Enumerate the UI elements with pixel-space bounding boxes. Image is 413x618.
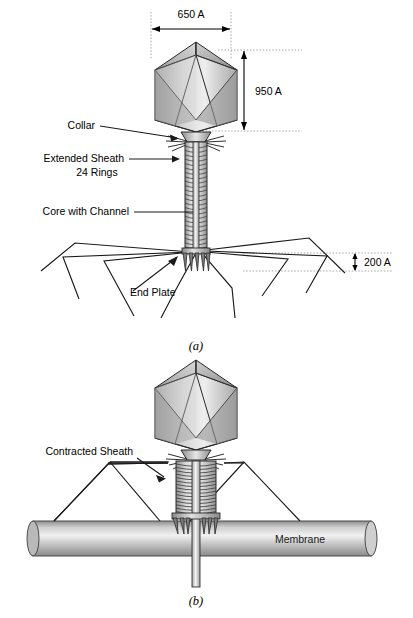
dimension-head-height: 950 A xyxy=(241,51,282,130)
label-collar: Collar xyxy=(68,119,96,131)
label-extended-sheath-rings: 24 Rings xyxy=(76,166,117,178)
phage-diagram: 650 A 950 A 200 A xyxy=(0,0,413,618)
base-plate-a xyxy=(182,248,210,271)
caption-panel-a: (a) xyxy=(189,339,204,353)
label-leaders-b xyxy=(137,458,164,477)
panel-a: 650 A 950 A 200 A xyxy=(41,8,392,353)
label-end-plate: End Plate xyxy=(130,286,176,298)
label-contracted-sheath: Contracted Sheath xyxy=(45,445,133,457)
core-channel-b xyxy=(192,461,200,587)
panel-b: Membrane xyxy=(27,360,377,608)
capsid-a xyxy=(155,42,237,132)
core-channel-a xyxy=(193,142,199,250)
label-extended-sheath: Extended Sheath xyxy=(43,152,124,164)
dimension-base-plate-height-label: 200 A xyxy=(364,256,391,268)
dimension-head-width-label: 650 A xyxy=(178,8,205,20)
label-arrowhead-contracted-sheath xyxy=(156,475,166,483)
label-arrowheads-a xyxy=(168,135,180,267)
dimension-head-width: 650 A xyxy=(152,8,230,32)
label-membrane: Membrane xyxy=(275,533,325,545)
figure-canvas: 650 A 950 A 200 A xyxy=(0,0,413,618)
membrane: Membrane xyxy=(27,521,377,556)
dimension-base-plate-height: 200 A xyxy=(352,253,390,271)
capsid-b xyxy=(155,360,237,450)
label-core-with-channel: Core with Channel xyxy=(43,205,129,217)
extended-sheath-a xyxy=(185,142,207,250)
dimension-head-height-label: 950 A xyxy=(255,85,282,97)
caption-panel-b: (b) xyxy=(189,594,204,608)
